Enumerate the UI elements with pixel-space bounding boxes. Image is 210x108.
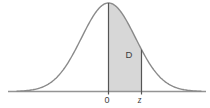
normal-curve-canvas: D 0 z [0,0,210,108]
area-label: D [126,49,133,60]
mean-tick-label: 0 [104,95,109,105]
shaded-area-0-to-z [109,3,142,92]
z-tick-label: z [137,95,142,105]
normal-distribution-figure: D 0 z [0,0,210,108]
